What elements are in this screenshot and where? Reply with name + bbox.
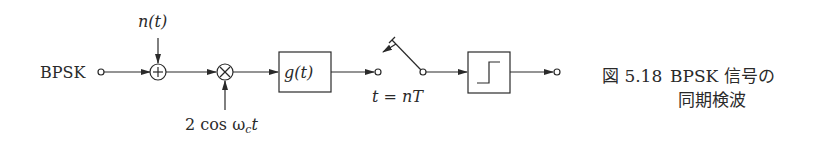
figure-caption: 図 5.18BPSK 信号の 同期検波 xyxy=(602,64,775,112)
caption-line2: 同期検波 xyxy=(602,88,775,112)
sampler-label: t = nT xyxy=(372,87,424,106)
input-label: BPSK xyxy=(40,63,86,82)
sampler-input-terminal xyxy=(375,69,381,75)
noise-label: n(t) xyxy=(138,12,167,31)
filter-label: g(t) xyxy=(284,63,313,82)
input-terminal xyxy=(98,69,104,75)
figure-number: 図 5.18 xyxy=(602,64,670,88)
output-terminal xyxy=(554,69,560,75)
sampler-output-terminal xyxy=(420,69,426,75)
caption-line1: BPSK 信号の xyxy=(670,66,775,86)
carrier-label: 2 cos ωct xyxy=(185,115,258,136)
